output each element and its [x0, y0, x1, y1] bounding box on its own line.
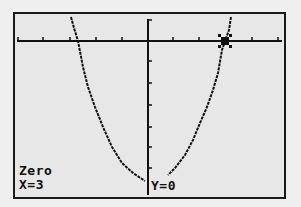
x-axis: [17, 37, 282, 41]
y-axis: [148, 19, 152, 195]
y-value-readout: Y=0: [151, 179, 176, 192]
x-value-readout: X=3: [19, 178, 44, 191]
mode-label: Zero: [19, 164, 52, 177]
